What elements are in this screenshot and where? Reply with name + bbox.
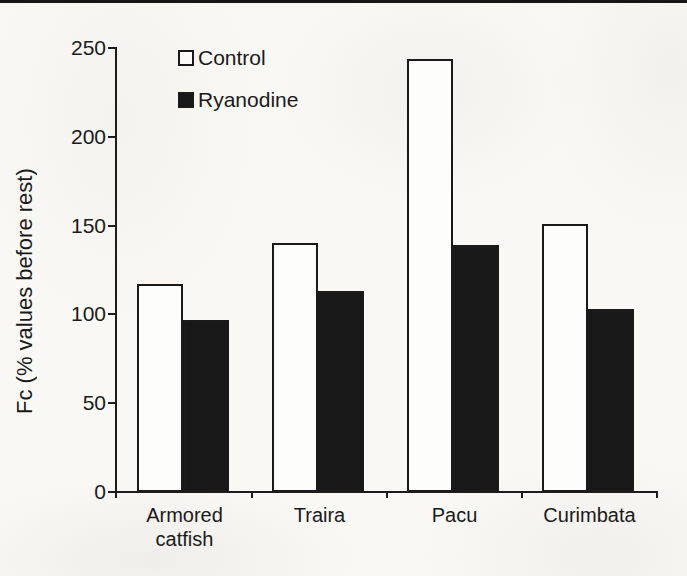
- scanned-bar-chart-figure: Fc (% values before rest) 05010015020025…: [0, 0, 687, 576]
- y-axis-title: Fc (% values before rest): [12, 126, 42, 456]
- y-tick-label-50: 50: [54, 391, 106, 415]
- legend-label-ryanodine: Ryanodine: [198, 89, 298, 110]
- x-tick-mark-2: [386, 491, 388, 498]
- ryanodine-swatch-icon: [178, 92, 194, 108]
- x-tick-mark-3: [521, 491, 523, 498]
- x-category-label-traira: Traira: [265, 503, 375, 527]
- bar-control-traira: [272, 243, 318, 492]
- bar-control-pacu: [407, 59, 453, 492]
- bar-ryanodine-traira: [318, 291, 364, 492]
- legend-entry-ryanodine: Ryanodine: [178, 89, 298, 110]
- y-tick-label-150: 150: [54, 214, 106, 238]
- x-tick-mark-4: [656, 491, 658, 498]
- y-tick-label-100: 100: [54, 302, 106, 326]
- y-tick-label-200: 200: [54, 125, 106, 149]
- x-category-label-curimbata: Curimbata: [535, 503, 645, 527]
- bar-ryanodine-curimbata: [588, 309, 634, 492]
- bar-control-armored-catfish: [137, 284, 183, 492]
- legend-label-control: Control: [198, 47, 266, 68]
- x-category-label-pacu: Pacu: [400, 503, 510, 527]
- y-axis-line: [115, 47, 117, 498]
- control-swatch-icon: [178, 50, 194, 66]
- x-category-label-armored-catfish: Armored catfish: [130, 503, 240, 551]
- legend-entry-control: Control: [178, 47, 298, 68]
- bar-ryanodine-armored-catfish: [183, 320, 229, 492]
- y-tick-label-0: 0: [54, 480, 106, 504]
- y-tick-label-250: 250: [54, 36, 106, 60]
- x-tick-mark-1: [251, 491, 253, 498]
- page-top-rule: [0, 0, 687, 3]
- bar-ryanodine-pacu: [453, 245, 499, 492]
- bar-control-curimbata: [542, 224, 588, 492]
- legend: Control Ryanodine: [178, 47, 298, 131]
